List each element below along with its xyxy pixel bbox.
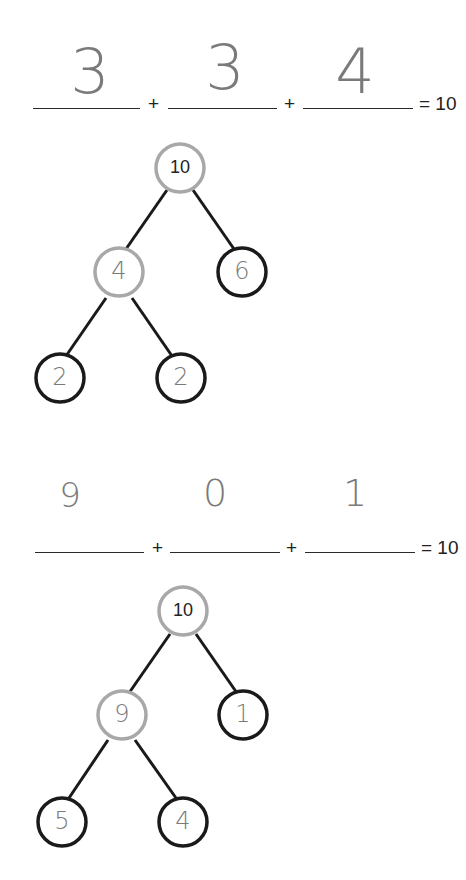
number-bond-tree-1 (0, 0, 466, 880)
node-left-1-label[interactable]: 4 (104, 257, 134, 285)
answer-2-3[interactable]: 1 (340, 471, 370, 515)
blank-2-2[interactable] (170, 552, 280, 553)
node-right-2-label[interactable]: 1 (228, 700, 258, 728)
node-root-2-label: 10 (163, 600, 203, 621)
node-left-left-2-label[interactable]: 5 (47, 807, 77, 835)
equals-ten: = 10 (421, 537, 459, 559)
answer-2-2[interactable]: 0 (195, 471, 235, 515)
answer-2-1[interactable]: 9 (50, 475, 90, 515)
node-left-right-2-label[interactable]: 4 (168, 807, 198, 835)
node-root-1-label: 10 (160, 157, 200, 178)
plus-sign: + (286, 537, 297, 559)
plus-sign: + (152, 537, 163, 559)
node-left-right-1-label[interactable]: 2 (166, 363, 196, 391)
blank-2-3[interactable] (305, 552, 415, 553)
equation-2: 9 + 0 + 1 = 10 (0, 513, 466, 553)
node-left-2-label[interactable]: 9 (107, 700, 137, 728)
blank-2-1[interactable] (35, 552, 144, 553)
node-left-left-1-label[interactable]: 2 (45, 363, 75, 391)
node-right-1-label[interactable]: 6 (227, 257, 257, 285)
